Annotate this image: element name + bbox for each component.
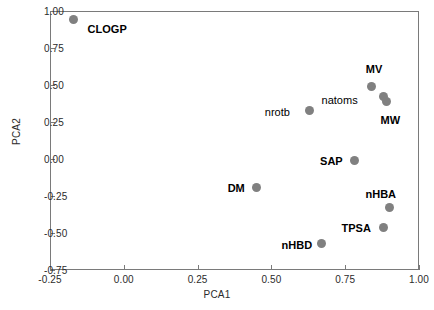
data-point-marker[interactable] bbox=[305, 106, 314, 115]
data-point-label: DM bbox=[228, 182, 245, 194]
data-point-marker[interactable] bbox=[317, 239, 326, 248]
pca-scatter-figure: -0.250.000.250.500.751.00 -0.75-0.50-0.2… bbox=[0, 0, 434, 310]
data-point-label: SAP bbox=[320, 155, 343, 167]
data-point-marker[interactable] bbox=[379, 223, 388, 232]
data-point-label: MV bbox=[366, 63, 383, 75]
x-tick-label: 0.75 bbox=[335, 274, 355, 285]
x-tick-mark bbox=[271, 265, 272, 270]
x-tick-label: -0.25 bbox=[38, 274, 61, 285]
x-tick-mark bbox=[345, 265, 346, 270]
data-point-label: TPSA bbox=[342, 222, 371, 234]
data-point-label: nHBD bbox=[282, 239, 313, 251]
x-tick-label: 0.00 bbox=[114, 274, 134, 285]
y-axis-title: PCA2 bbox=[11, 102, 22, 162]
x-tick-mark bbox=[198, 265, 199, 270]
x-tick-label: 1.00 bbox=[409, 274, 429, 285]
data-point-label: nHBA bbox=[365, 188, 396, 200]
data-point-marker[interactable] bbox=[252, 183, 261, 192]
data-point-marker[interactable] bbox=[382, 97, 391, 106]
data-point-label: CLOGP bbox=[88, 23, 127, 35]
x-tick-mark bbox=[419, 265, 420, 270]
x-tick-label: 0.25 bbox=[188, 274, 208, 285]
x-tick-label: 0.50 bbox=[261, 274, 281, 285]
x-axis-title: PCA1 bbox=[0, 289, 434, 300]
x-tick-mark bbox=[124, 265, 125, 270]
data-point-label: natoms bbox=[322, 94, 358, 106]
data-point-label: nrotb bbox=[265, 106, 290, 118]
data-point-marker[interactable] bbox=[350, 156, 359, 165]
data-point-label: MW bbox=[381, 114, 401, 126]
